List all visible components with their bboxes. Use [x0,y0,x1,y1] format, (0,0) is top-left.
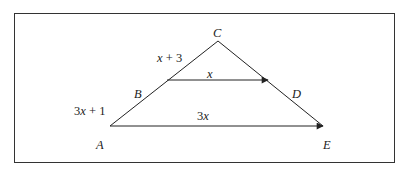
label-ae: 3x [197,109,209,123]
triangle-diagram: C B D A E x + 3 3x + 1 x 3x [0,0,409,171]
label-bc: x + 3 [156,51,182,65]
label-ab: 3x + 1 [74,104,105,118]
point-label-d: D [291,87,301,101]
point-label-e: E [322,138,331,152]
label-bd: x [206,67,213,81]
point-label-b: B [134,87,142,101]
point-label-a: A [95,138,104,152]
point-label-c: C [213,26,222,40]
side-ce [218,41,323,126]
